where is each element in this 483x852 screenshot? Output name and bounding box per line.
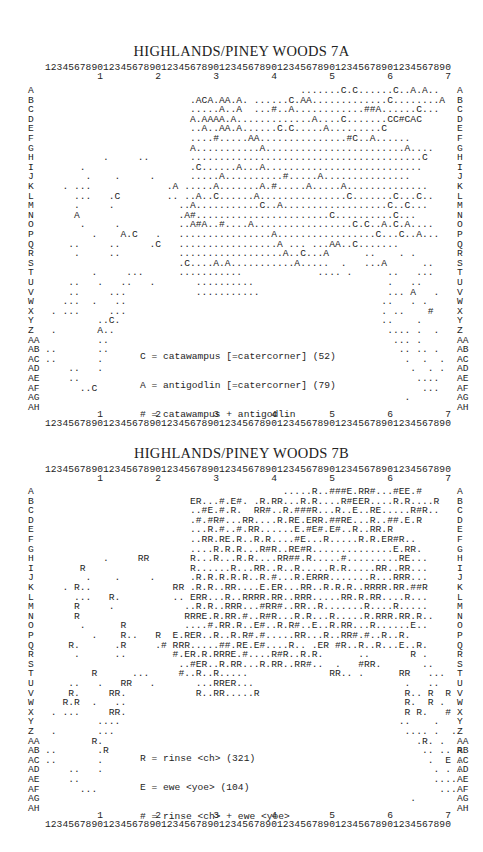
legend-item-r: R = rinse <ch> (321) — [140, 754, 290, 764]
legend-item-hash: # = rinse <ch> + ewe <yoe> — [140, 812, 290, 822]
legend-item-hash: # = catawampus + antigodlin — [140, 410, 336, 420]
map-legend: R = rinse <ch> (321) E = ewe <yoe> (104)… — [140, 735, 290, 841]
row-label-right: AH — [457, 403, 473, 413]
row-label-left: AH — [28, 804, 44, 814]
legend-item-e: E = ewe <yoe> (104) — [140, 783, 290, 793]
axis-tens-top: 1 2 3 4 5 6 7 — [45, 72, 451, 82]
row-label-left: AH — [28, 403, 44, 413]
map-legend: C = catawampus [=catercorner] (52) A = a… — [140, 333, 336, 439]
axis-tens-top: 1 2 3 4 5 6 7 — [45, 474, 451, 484]
legend-item-c: C = catawampus [=catercorner] (52) — [140, 352, 336, 362]
panel-title: HIGHLANDS/PINEY WOODS 7B — [0, 445, 483, 462]
panel-title: HIGHLANDS/PINEY WOODS 7A — [0, 43, 483, 60]
legend-item-a: A = antigodlin [=catercorner] (79) — [140, 381, 336, 391]
